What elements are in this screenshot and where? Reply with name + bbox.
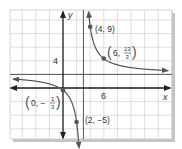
- data-point: [61, 88, 66, 93]
- paren-right: ): [132, 44, 137, 60]
- x-axis-label: x: [162, 92, 168, 102]
- graph-figure: y x 6 4 (4, 9) ( 6, 13 3 ) ( 0, − 1 3 ) …: [0, 0, 182, 149]
- paren-left: (: [107, 44, 112, 60]
- data-point: [88, 25, 93, 30]
- y-tick-label-4: 4: [53, 56, 58, 66]
- point-label-2-neg-5: (2, −5): [85, 115, 110, 125]
- fraction-numerator: 13: [124, 46, 131, 52]
- data-point: [102, 56, 107, 61]
- data-point: [74, 120, 79, 125]
- paren-left: (: [25, 94, 30, 110]
- y-axis-label: y: [67, 10, 73, 20]
- rational-function-graph: y x 6 4 (4, 9) ( 6, 13 3 ) ( 0, − 1 3 ) …: [0, 0, 182, 149]
- label-prefix: 0, −: [31, 98, 45, 108]
- point-label-4-9: (4, 9): [95, 24, 115, 34]
- label-prefix: 6,: [113, 48, 120, 58]
- paren-right: ): [56, 94, 61, 110]
- x-tick-label-6: 6: [101, 91, 106, 101]
